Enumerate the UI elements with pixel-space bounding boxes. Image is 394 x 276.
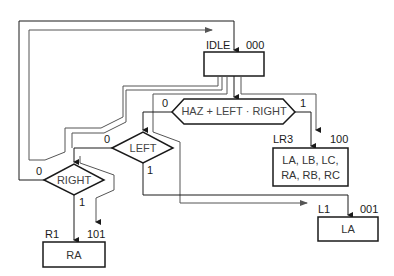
state-code-r1: 101 bbox=[87, 229, 105, 240]
state-outputs-r1: RA bbox=[43, 248, 105, 262]
decision-right-text: RIGHT bbox=[50, 175, 98, 186]
state-code-l1: 001 bbox=[360, 204, 378, 215]
state-name-r1: R1 bbox=[45, 229, 59, 240]
decision-left-true-label: 1 bbox=[147, 165, 153, 176]
state-outputs-lr3-line2: RA, RB, RC bbox=[273, 168, 348, 182]
state-outputs-lr3-line1: LA, LB, LC, bbox=[273, 153, 348, 167]
state-outputs-l1: LA bbox=[318, 222, 378, 236]
decision-haz-true-label: 1 bbox=[300, 98, 306, 109]
decision-left-text: LEFT bbox=[118, 143, 168, 154]
state-name-l1: L1 bbox=[318, 204, 330, 215]
decision-haz-text: HAZ + LEFT · RIGHT bbox=[180, 106, 288, 117]
state-code-idle: 000 bbox=[246, 40, 264, 51]
decision-right-true-label: 1 bbox=[79, 197, 85, 208]
state-name-idle: IDLE bbox=[206, 40, 230, 51]
decision-haz-false-label: 0 bbox=[162, 98, 168, 109]
decision-right-false-label: 0 bbox=[36, 166, 42, 177]
state-box-idle bbox=[204, 52, 264, 76]
state-name-lr3: LR3 bbox=[273, 134, 293, 145]
decision-left-false-label: 0 bbox=[104, 134, 110, 145]
loop-thin-to-idle bbox=[29, 30, 212, 160]
state-code-lr3: 100 bbox=[330, 134, 348, 145]
